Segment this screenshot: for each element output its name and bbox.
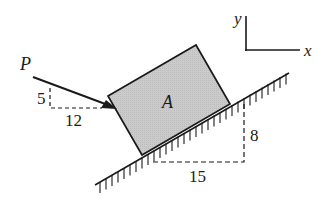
force-label: P bbox=[19, 54, 31, 74]
incline-run-label: 15 bbox=[189, 167, 206, 186]
diagram-canvas: y x A bbox=[0, 0, 329, 205]
block-a: A bbox=[108, 45, 230, 155]
force-p: P bbox=[19, 54, 117, 109]
block-label: A bbox=[161, 92, 174, 112]
y-axis-label: y bbox=[232, 9, 242, 28]
x-axis-label: x bbox=[303, 41, 312, 60]
force-rise-label: 5 bbox=[37, 89, 46, 108]
force-run-label: 12 bbox=[65, 111, 82, 130]
force-slope-triangle: 5 12 bbox=[37, 88, 102, 130]
coordinate-axes: y x bbox=[232, 9, 312, 60]
force-slope-dashes bbox=[50, 88, 102, 108]
incline-rise-label: 8 bbox=[250, 126, 259, 145]
